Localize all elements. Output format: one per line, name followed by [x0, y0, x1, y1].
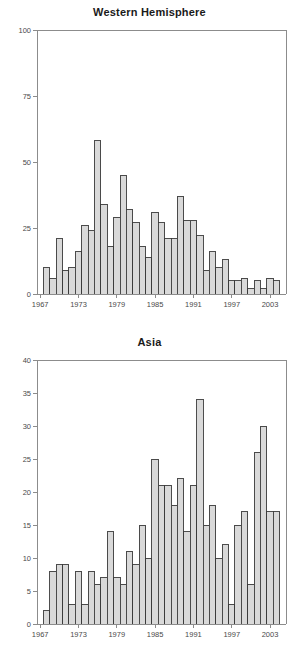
bar: [203, 525, 209, 624]
bar: [50, 278, 56, 294]
bar: [139, 525, 145, 624]
bar: [63, 270, 69, 294]
bar: [222, 545, 228, 624]
y-tick-label: 5: [27, 587, 31, 596]
chart-svg-asia: 0510152025303540196719731979198519911997…: [0, 352, 299, 644]
bar: [69, 604, 75, 624]
bar: [126, 551, 132, 624]
x-tick-label: 1973: [70, 300, 87, 309]
bar: [43, 268, 49, 294]
bar: [114, 217, 120, 294]
x-tick-label: 1979: [108, 630, 125, 639]
bar: [139, 246, 145, 294]
bar: [165, 485, 171, 624]
x-tick-label: 1967: [32, 630, 49, 639]
bar: [184, 532, 190, 624]
chart-panel-asia: Asia 05101520253035401967197319791985199…: [0, 330, 299, 663]
y-tick-label: 50: [23, 158, 31, 167]
x-tick-label: 1997: [223, 630, 240, 639]
bar: [190, 485, 196, 624]
bar: [248, 289, 254, 294]
bar: [254, 281, 260, 294]
y-tick-label: 20: [23, 488, 31, 497]
bar: [260, 426, 266, 624]
bar: [133, 565, 139, 624]
bar: [63, 565, 69, 624]
y-tick-label: 0: [27, 290, 31, 299]
plot-area-asia: 0510152025303540196719731979198519911997…: [0, 352, 299, 644]
chart-svg-western-hemisphere: 02550751001967197319791985199119972003: [0, 22, 299, 312]
bar: [254, 452, 260, 624]
y-tick-label: 10: [23, 554, 31, 563]
bar: [184, 220, 190, 294]
bar: [56, 239, 62, 294]
bar: [273, 281, 279, 294]
bar: [267, 278, 273, 294]
bar: [88, 571, 94, 624]
bar: [222, 260, 228, 294]
bar: [209, 252, 215, 294]
y-tick-label: 25: [23, 455, 31, 464]
bar: [69, 268, 75, 294]
bar: [50, 571, 56, 624]
x-tick-label: 2003: [262, 300, 279, 309]
bar: [267, 512, 273, 624]
bar: [229, 604, 235, 624]
bar: [88, 231, 94, 294]
y-tick-label: 0: [27, 620, 31, 629]
y-tick-label: 40: [23, 356, 31, 365]
x-tick-label: 1997: [223, 300, 240, 309]
x-tick-label: 1985: [147, 630, 164, 639]
bar: [101, 204, 107, 294]
plot-area-western-hemisphere: 02550751001967197319791985199119972003: [0, 22, 299, 312]
chart-title-western-hemisphere: Western Hemisphere: [0, 6, 299, 18]
bar: [82, 225, 88, 294]
bar: [197, 400, 203, 624]
bar: [152, 212, 158, 294]
bar: [177, 479, 183, 624]
bar: [165, 239, 171, 294]
bar: [146, 558, 152, 624]
bar: [43, 611, 49, 624]
chart-title-asia: Asia: [0, 336, 299, 348]
x-tick-label: 2003: [262, 630, 279, 639]
y-tick-label: 25: [23, 224, 31, 233]
bar: [216, 268, 222, 294]
x-tick-label: 1985: [147, 300, 164, 309]
bar: [107, 532, 113, 624]
bar: [171, 239, 177, 294]
bar: [241, 512, 247, 624]
bar: [209, 505, 215, 624]
bar: [241, 278, 247, 294]
bar: [75, 571, 81, 624]
y-tick-label: 35: [23, 389, 31, 398]
bar: [235, 525, 241, 624]
bar: [260, 289, 266, 294]
bar: [216, 558, 222, 624]
bar: [75, 252, 81, 294]
bar: [114, 578, 120, 624]
bar: [203, 270, 209, 294]
bar: [107, 246, 113, 294]
figure-root: Western Hemisphere 025507510019671973197…: [0, 0, 299, 663]
bar: [133, 223, 139, 294]
bar: [273, 512, 279, 624]
bar: [248, 584, 254, 624]
y-tick-label: 75: [23, 92, 31, 101]
x-tick-label: 1979: [108, 300, 125, 309]
bar: [171, 505, 177, 624]
bar: [120, 584, 126, 624]
bar: [229, 281, 235, 294]
y-tick-label: 30: [23, 422, 31, 431]
bar: [120, 175, 126, 294]
x-tick-label: 1967: [32, 300, 49, 309]
bar-series-asia: [43, 400, 279, 624]
bar: [126, 210, 132, 294]
bar: [158, 223, 164, 294]
x-tick-label: 1991: [185, 630, 202, 639]
bar: [146, 257, 152, 294]
bar: [94, 141, 100, 294]
bar: [190, 220, 196, 294]
bar: [101, 578, 107, 624]
bar: [235, 281, 241, 294]
